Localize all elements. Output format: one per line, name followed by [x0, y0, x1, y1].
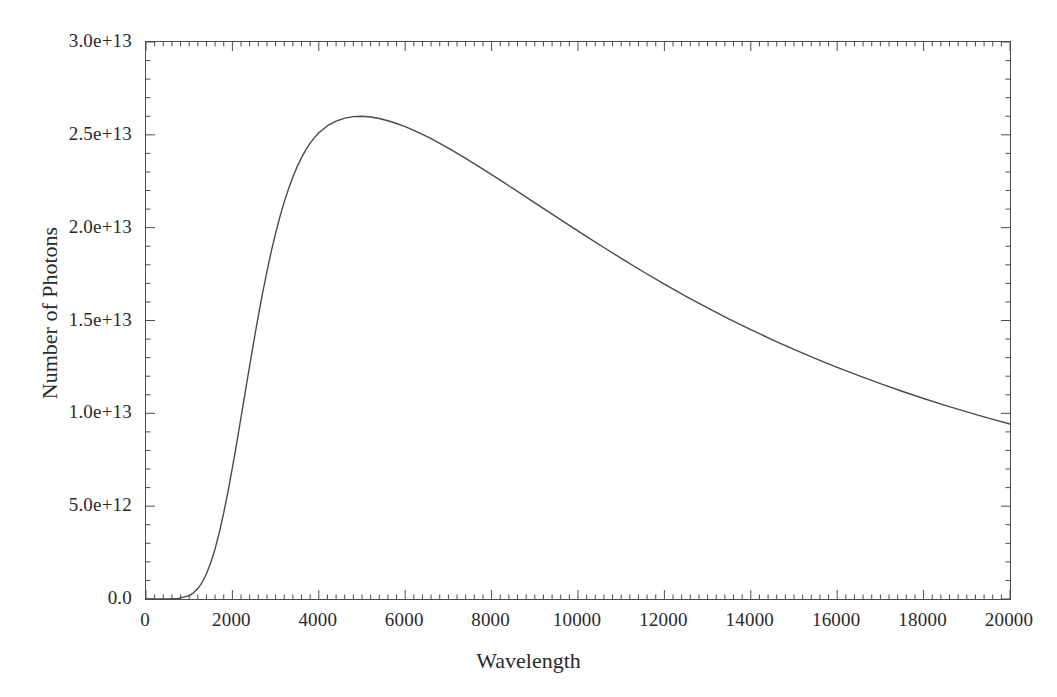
x-tick-label: 2000: [212, 609, 251, 631]
y-axis-tick-labels: 0.05.0e+121.0e+131.5e+132.0e+132.5e+133.…: [0, 0, 132, 697]
x-tick-label: 18000: [898, 609, 947, 631]
x-tick-label: 10000: [553, 609, 602, 631]
y-tick-label: 5.0e+12: [69, 494, 132, 516]
x-tick-label: 12000: [639, 609, 688, 631]
x-tick-label: 6000: [385, 609, 424, 631]
y-tick-label: 0.0: [108, 587, 132, 609]
x-tick-label: 14000: [726, 609, 775, 631]
x-tick-label: 0: [140, 609, 150, 631]
x-axis-title: Wavelength: [0, 648, 1057, 674]
x-tick-label: 16000: [812, 609, 861, 631]
chart-figure: 0.05.0e+121.0e+131.5e+132.0e+132.5e+133.…: [0, 0, 1057, 697]
y-tick-label: 2.0e+13: [69, 216, 132, 238]
plot-area: [145, 41, 1011, 600]
y-tick-label: 3.0e+13: [69, 30, 132, 52]
y-tick-label: 1.0e+13: [69, 401, 132, 423]
axis-ticks: [146, 42, 1010, 599]
data-series-line: [146, 116, 1010, 599]
plot-title: [0, 0, 1057, 4]
x-tick-label: 8000: [471, 609, 510, 631]
y-tick-label: 1.5e+13: [69, 309, 132, 331]
x-axis-tick-labels: 0200040006000800010000120001400016000180…: [0, 609, 1057, 639]
y-axis-title: Number of Photons: [37, 203, 63, 423]
y-tick-label: 2.5e+13: [69, 123, 132, 145]
plot-canvas: [146, 42, 1010, 599]
x-tick-label: 4000: [298, 609, 337, 631]
x-tick-label: 20000: [985, 609, 1034, 631]
